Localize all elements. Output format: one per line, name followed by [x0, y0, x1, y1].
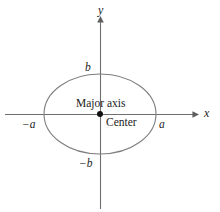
b-positive-label: b: [85, 62, 91, 74]
y-axis-label: y: [98, 4, 103, 16]
center-label: Center: [106, 117, 137, 129]
center-point: [97, 111, 103, 117]
a-positive-label: a: [159, 119, 165, 131]
x-axis-label: x: [204, 107, 209, 119]
ellipse-figure: y x b −b a −a Major axis Center: [0, 0, 220, 212]
a-negative-label: −a: [22, 119, 36, 131]
major-axis-label: Major axis: [76, 98, 126, 110]
b-negative-label: −b: [79, 158, 93, 170]
